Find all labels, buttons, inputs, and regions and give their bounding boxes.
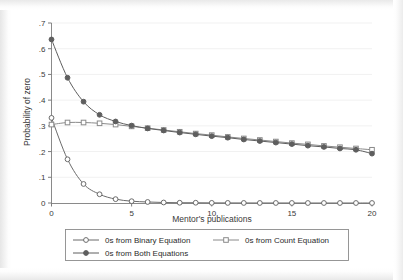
data-marker-open-circle xyxy=(241,201,246,206)
y-tick-label: .6 xyxy=(39,45,46,54)
data-marker-open-circle xyxy=(129,199,134,204)
data-marker-filled-circle xyxy=(338,146,343,151)
data-series-layer xyxy=(49,37,374,205)
chart-legend: 0s from Binary Equation0s from Count Equ… xyxy=(66,230,349,261)
data-marker-filled-circle xyxy=(113,119,118,124)
data-marker-open-square xyxy=(49,122,54,127)
data-marker-filled-circle xyxy=(129,123,134,128)
data-marker-open-circle xyxy=(225,201,230,206)
y-tick-label: .7 xyxy=(39,19,46,28)
data-marker-filled-circle xyxy=(354,147,359,152)
data-marker-filled-circle xyxy=(322,145,327,150)
data-marker-open-circle xyxy=(257,201,262,206)
y-tick-label: 0 xyxy=(41,199,46,208)
data-marker-open-circle xyxy=(289,201,294,206)
data-marker-filled-circle xyxy=(241,137,246,142)
x-tick-label: 0 xyxy=(49,209,54,218)
data-marker-filled-circle xyxy=(81,99,86,104)
x-axis-title: Mentor's publications xyxy=(172,214,252,224)
x-tick-label: 20 xyxy=(368,209,377,218)
x-tick-label: 15 xyxy=(287,209,296,218)
data-marker-filled-circle xyxy=(65,75,70,80)
y-tick-label: .5 xyxy=(39,70,46,79)
data-marker-open-circle xyxy=(338,201,343,206)
data-marker-filled-circle xyxy=(193,132,198,137)
y-tick-label: .1 xyxy=(39,173,46,182)
legend-label: 0s from Count Equation xyxy=(245,236,329,245)
data-marker-open-circle xyxy=(145,200,150,205)
data-marker-filled-circle xyxy=(209,134,214,139)
data-marker-filled-circle xyxy=(145,126,150,131)
gridlines xyxy=(52,23,373,177)
y-tick-label: .4 xyxy=(39,96,46,105)
legend-label: 0s from Both Equations xyxy=(105,249,188,258)
data-marker-filled-circle xyxy=(273,140,278,145)
data-marker-open-circle xyxy=(306,201,311,206)
series-line xyxy=(52,118,373,203)
data-marker-filled-circle xyxy=(97,112,102,117)
data-marker-filled-circle xyxy=(225,135,230,140)
y-axis-ticks: 0.1.2.3.4.5.6.7 xyxy=(39,19,52,208)
chart-figure: 0.1.2.3.4.5.6.7 05101520 Probability of … xyxy=(0,0,403,280)
data-marker-filled-circle xyxy=(257,139,262,144)
data-series xyxy=(49,37,374,156)
data-marker-filled-circle xyxy=(49,37,54,42)
y-tick-label: .3 xyxy=(39,122,46,131)
data-marker-open-square xyxy=(97,121,102,126)
y-axis-title: Probability of zero xyxy=(22,78,32,146)
data-marker-open-circle xyxy=(193,200,198,205)
legend-label: 0s from Binary Equation xyxy=(105,236,190,245)
data-marker-filled-circle xyxy=(370,151,375,156)
data-marker-open-circle xyxy=(97,192,102,197)
data-marker-filled-circle xyxy=(306,143,311,148)
data-series xyxy=(49,115,374,205)
data-marker-open-square xyxy=(65,120,70,125)
data-marker-open-circle xyxy=(49,115,54,120)
data-marker-open-circle xyxy=(177,200,182,205)
data-marker-open-circle xyxy=(370,201,375,206)
data-marker-filled-circle xyxy=(84,251,89,256)
data-marker-open-circle xyxy=(161,200,166,205)
data-marker-filled-circle xyxy=(161,128,166,133)
data-marker-open-circle xyxy=(273,201,278,206)
data-marker-open-circle xyxy=(65,157,70,162)
y-tick-label: .2 xyxy=(39,148,46,157)
data-marker-filled-circle xyxy=(289,142,294,147)
data-marker-open-square xyxy=(81,120,86,125)
data-marker-open-circle xyxy=(322,201,327,206)
data-marker-open-circle xyxy=(113,197,118,202)
data-marker-open-circle xyxy=(81,182,86,187)
data-marker-open-circle xyxy=(354,201,359,206)
x-tick-label: 5 xyxy=(129,209,134,218)
data-marker-filled-circle xyxy=(177,130,182,135)
data-marker-open-circle xyxy=(84,238,89,243)
data-marker-open-square xyxy=(224,238,229,243)
line-chart-plot: 0.1.2.3.4.5.6.7 05101520 Probability of … xyxy=(0,0,403,280)
data-marker-open-circle xyxy=(209,200,214,205)
